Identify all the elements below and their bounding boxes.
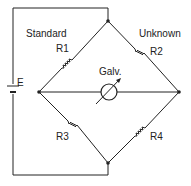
r4-label: R4 <box>150 131 163 142</box>
arm-r4 <box>108 92 179 163</box>
source-label: E <box>17 77 24 88</box>
r1-label: R1 <box>56 43 69 54</box>
node-right <box>177 90 181 94</box>
node-left <box>37 90 41 94</box>
galvanometer-icon <box>96 78 121 104</box>
galvanometer-label: Galv. <box>99 66 122 77</box>
unknown-label: Unknown <box>139 28 181 39</box>
r2-label: R2 <box>150 46 163 57</box>
r3-label: R3 <box>56 131 69 142</box>
standard-label: Standard <box>26 28 67 39</box>
node-bottom <box>106 161 110 165</box>
bridge-circuit: E Galv. Standard Unknown R1 R2 R3 R4 <box>0 0 191 186</box>
node-top <box>106 19 110 23</box>
